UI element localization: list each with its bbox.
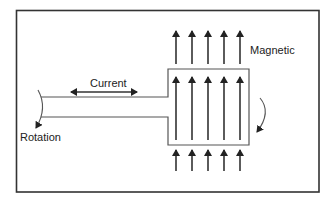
rotation-arc-right-icon [257,98,265,132]
magnetic-label: Magnetic [250,45,295,56]
magnetic-arrows-top [176,31,240,64]
magnetic-arrows-bottom [176,150,240,171]
rotation-arc-left-icon [36,90,43,128]
outer-frame [17,11,320,193]
current-label: Current [90,78,127,89]
rotation-label: Rotation [20,132,61,143]
armature-outline [41,69,249,145]
motor-diagram [0,0,336,203]
magnetic-arrows-inside [176,77,240,140]
